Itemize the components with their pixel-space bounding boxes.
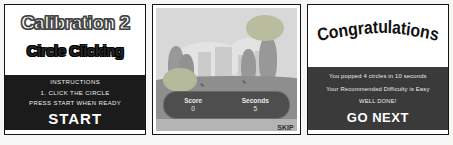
score-panel: Score 0 Seconds 5 <box>163 91 289 119</box>
instruction-line-2: PRESS START WHEN READY <box>29 100 121 106</box>
instructions-box: INSTRUCTIONS 1. CLICK THE CIRCLE PRESS S… <box>5 75 145 130</box>
instructions-heading: INSTRUCTIONS <box>50 79 100 85</box>
score-stat: Score 0 <box>184 97 202 112</box>
game-screen: Score 0 Seconds 5 SKIP <box>152 4 300 135</box>
results-line-2: Your Recommended Difficulty is Easy <box>326 86 429 92</box>
intro-subtitle: Circle Clicking <box>5 42 145 59</box>
go-next-button[interactable]: GO NEXT <box>347 111 409 124</box>
seconds-stat: Seconds 5 <box>242 97 269 112</box>
target-circle[interactable] <box>246 15 284 41</box>
game-scene: Score 0 Seconds 5 SKIP <box>156 8 296 131</box>
seconds-label: Seconds <box>242 97 269 104</box>
intro-screen: Calibration 2 Circle Clicking INSTRUCTIO… <box>4 4 146 135</box>
target-circle[interactable] <box>163 68 197 91</box>
figure-strip: Calibration 2 Circle Clicking INSTRUCTIO… <box>0 0 453 145</box>
score-label: Score <box>184 97 202 104</box>
score-value: 0 <box>191 105 195 112</box>
skip-button[interactable]: SKIP <box>277 124 293 131</box>
well-done-text: WELL DONE! <box>359 98 397 104</box>
scene-footer-band <box>156 119 296 131</box>
intro-title: Calibration 2 <box>5 12 145 34</box>
instruction-line-1: 1. CLICK THE CIRCLE <box>41 90 110 96</box>
results-box: You popped 4 circles in 10 seconds Your … <box>308 67 448 130</box>
results-title: Congratulations <box>316 17 439 49</box>
seconds-value: 5 <box>254 105 258 112</box>
results-screen: Congratulations You popped 4 circles in … <box>307 4 449 135</box>
start-button[interactable]: START <box>48 111 102 126</box>
results-line-1: You popped 4 circles in 10 seconds <box>329 73 427 79</box>
